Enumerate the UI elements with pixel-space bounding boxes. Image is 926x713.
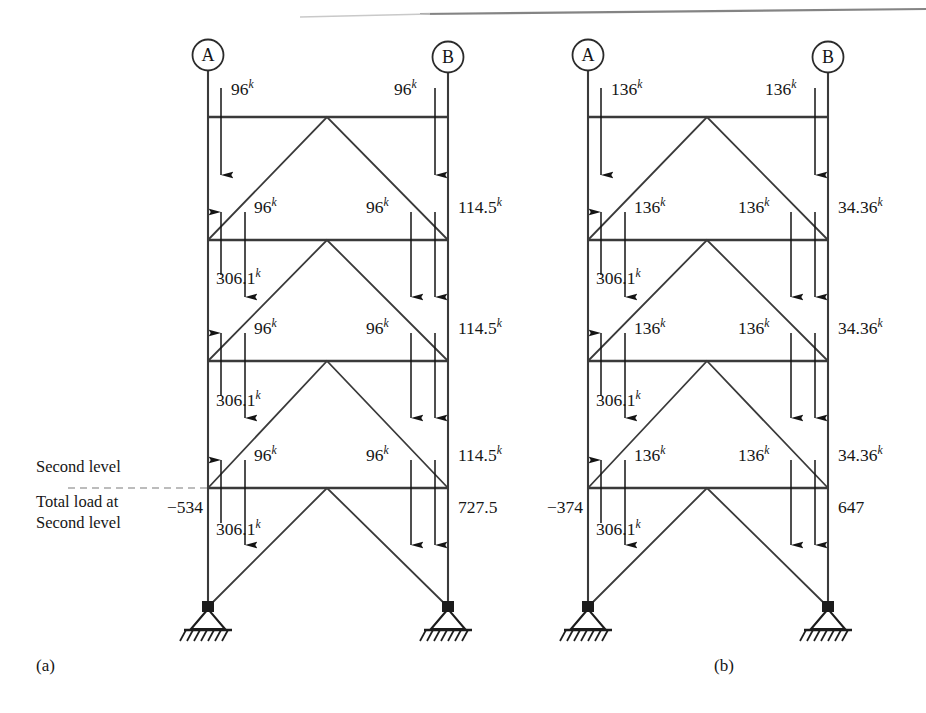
frame-b-left-total-label: −374 — [547, 497, 583, 518]
frame-b-brace-storey-4 — [588, 117, 828, 240]
frame-a-right-shear-label-4: 114.5k — [458, 196, 502, 217]
frame-b-joint-label-right: B — [813, 42, 843, 72]
frame-b — [560, 40, 852, 642]
frame-b-support-left — [560, 601, 612, 641]
frame-b-brace-storey-1 — [588, 488, 828, 607]
frame-b-joint-label-left: A — [573, 40, 603, 70]
page-top-rule — [300, 9, 926, 17]
frame-a-joint-label-right: B — [433, 42, 463, 72]
frame-b-load-label-2-left: 136k — [634, 444, 665, 465]
frame-a-column-force-label-4: 306.1k — [216, 267, 261, 288]
frame-a-brace-storey-1 — [208, 488, 448, 607]
frame-b-load-label-4-right: 136k — [738, 196, 769, 217]
figure-root: A B 96k 96k 96k 96k 306.1k 114.5k 96k 96… — [0, 0, 926, 713]
frame-a-column-force-label-2: 306.1k — [216, 518, 261, 539]
frame-a-brace-storey-2 — [208, 361, 448, 488]
frame-a-load-label-roof-left: 96k — [231, 78, 254, 99]
frame-a-brace-storey-4 — [208, 117, 448, 240]
frame-b-brace-storey-2 — [588, 361, 828, 488]
frame-a-load-label-2-left: 96k — [254, 444, 277, 465]
frame-a-load-label-4-right: 96k — [366, 196, 389, 217]
frame-a-second-level-marker: Second level — [36, 457, 121, 476]
frame-b-right-shear-label-2: 34.36k — [838, 444, 883, 465]
frame-a-brace-storey-3 — [208, 240, 448, 361]
frame-a-load-label-3-right: 96k — [366, 317, 389, 338]
frame-b-load-label-roof-left: 136k — [611, 78, 642, 99]
frame-a-load-label-3-left: 96k — [254, 317, 277, 338]
frame-b-load-label-2-right: 136k — [738, 444, 769, 465]
frame-b-right-shear-label-4: 34.36k — [838, 196, 883, 217]
frame-a — [68, 40, 472, 642]
frame-a-total-load-line1: Total load at — [36, 492, 118, 511]
frame-a-support-left — [180, 601, 232, 641]
frame-a-load-label-2-right: 96k — [366, 444, 389, 465]
frame-b-brace-storey-3 — [588, 240, 828, 361]
frame-a-right-shear-label-3: 114.5k — [458, 317, 502, 338]
frame-b-load-label-3-right: 136k — [738, 317, 769, 338]
frame-b-load-label-4-left: 136k — [634, 196, 665, 217]
frame-b-column-force-label-2: 306.1k — [596, 518, 641, 539]
frame-b-support-right — [800, 601, 852, 641]
frame-b-column-force-label-3: 306.1k — [596, 389, 641, 410]
frame-a-load-label-4-left: 96k — [254, 196, 277, 217]
frame-a-right-shear-label-2: 114.5k — [458, 444, 502, 465]
frame-a-caption: (a) — [36, 656, 55, 676]
frame-b-right-shear-label-3: 34.36k — [838, 317, 883, 338]
frame-b-right-total-label: 647 — [838, 497, 864, 518]
frame-a-column-force-label-3: 306.1k — [216, 389, 261, 410]
frame-a-joint-label-left: A — [193, 40, 223, 70]
frame-a-right-total-label: 727.5 — [458, 497, 497, 518]
frame-a-left-total-label: −534 — [167, 497, 203, 518]
frame-diagram-svg — [0, 0, 926, 713]
frame-b-load-label-3-left: 136k — [634, 317, 665, 338]
frame-b-column-force-label-4: 306.1k — [596, 267, 641, 288]
frame-b-caption: (b) — [714, 656, 734, 676]
frame-a-total-load-line2: Second level — [36, 513, 121, 532]
frame-a-support-right — [420, 601, 472, 641]
frame-b-load-label-roof-right: 136k — [765, 78, 796, 99]
frame-a-load-label-roof-right: 96k — [394, 78, 417, 99]
